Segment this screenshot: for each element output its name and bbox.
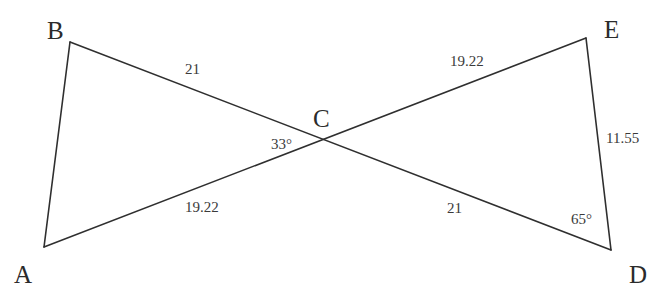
vertex-label-D: D	[629, 262, 647, 287]
measure-label-ed: 11.55	[606, 131, 639, 146]
angle-label-edc: 65°	[571, 212, 592, 227]
segment-ae	[44, 38, 586, 247]
vertex-label-B: B	[47, 18, 64, 43]
segment-ab	[44, 42, 70, 247]
vertex-label-C: C	[313, 106, 330, 131]
measure-label-ac: 19.22	[185, 200, 219, 215]
measure-label-bc: 21	[185, 62, 200, 77]
vertex-label-A: A	[14, 262, 32, 287]
geometry-diagram: B A C E D 21 19.22 19.22 21 11.55 33° 65…	[0, 0, 670, 301]
segment-bd	[70, 42, 611, 250]
vertex-label-E: E	[604, 17, 619, 42]
angle-label-acb: 33°	[271, 137, 292, 152]
segment-layer	[44, 38, 611, 250]
measure-label-cd: 21	[447, 201, 462, 216]
measure-label-ce: 19.22	[450, 54, 484, 69]
geometry-canvas	[0, 0, 670, 301]
